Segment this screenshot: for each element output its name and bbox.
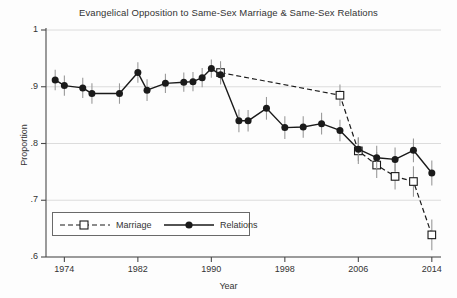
y-tick-label: .8 xyxy=(2,138,38,148)
plot-area xyxy=(0,0,457,298)
legend-item-marriage: Marriage xyxy=(59,213,152,237)
y-tick-label: .7 xyxy=(2,194,38,204)
x-tick-label: 1990 xyxy=(186,264,236,274)
x-tick-label: 2006 xyxy=(333,264,383,274)
chart-legend: Marriage Relations xyxy=(52,212,250,236)
x-axis-title: Year xyxy=(0,281,457,291)
y-tick-label: .9 xyxy=(2,81,38,91)
legend-item-relations: Relations xyxy=(163,213,258,237)
x-tick-label: 1998 xyxy=(260,264,310,274)
x-tick-label: 2014 xyxy=(407,264,457,274)
y-tick-label: 1 xyxy=(2,24,38,34)
legend-swatch-relations-icon xyxy=(163,217,215,233)
x-tick-label: 1982 xyxy=(113,264,163,274)
legend-label-marriage: Marriage xyxy=(116,220,152,230)
legend-label-relations: Relations xyxy=(220,220,258,230)
x-tick-label: 1974 xyxy=(39,264,89,274)
y-tick-label: .6 xyxy=(2,251,38,261)
chart-container: Evangelical Opposition to Same-Sex Marri… xyxy=(0,0,457,298)
legend-swatch-marriage-icon xyxy=(59,217,111,233)
